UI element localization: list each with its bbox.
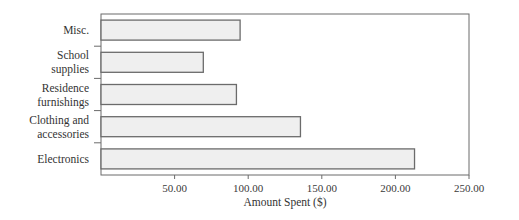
category-label: supplies [51, 63, 89, 76]
category-label: Misc. [63, 24, 89, 36]
category-label: Electronics [37, 153, 89, 165]
bar-residence-furnishings [101, 85, 236, 105]
x-tick-label: 250.00 [454, 182, 485, 194]
x-tick-label: 150.00 [307, 182, 338, 194]
category-label: School [57, 49, 89, 61]
category-label: accessories [37, 128, 89, 140]
bar-chart: Misc.SchoolsuppliesResidencefurnishingsC… [0, 0, 519, 220]
x-axis-title: Amount Spent ($) [243, 196, 326, 209]
bar-electronics [101, 149, 415, 169]
bar-misc [101, 20, 240, 40]
x-tick-label: 100.00 [233, 182, 264, 194]
category-label: Clothing and [29, 114, 89, 127]
x-tick-label: 50.00 [162, 182, 187, 194]
x-axis-ticks: 50.00100.00150.00200.00250.00 [162, 175, 484, 194]
bars-group [101, 20, 415, 169]
x-tick-label: 200.00 [380, 182, 411, 194]
category-label: furnishings [37, 96, 89, 109]
bar-clothing-and-accessories [101, 117, 300, 137]
category-labels: Misc.SchoolsuppliesResidencefurnishingsC… [29, 24, 89, 165]
category-ticks [94, 46, 101, 143]
bar-school-supplies [101, 52, 203, 72]
category-label: Residence [42, 82, 89, 94]
